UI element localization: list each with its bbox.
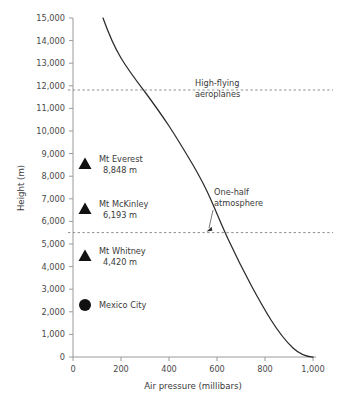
y-tick-label: 9,000 xyxy=(42,149,65,159)
y-tick-label: 1,000 xyxy=(42,329,65,339)
y-tick-label: 15,000 xyxy=(36,13,65,23)
point-marker-mt-whitney-label1: Mt Whitney xyxy=(99,246,146,256)
y-tick-label: 2,000 xyxy=(42,307,65,317)
point-marker-mexico-city-label1: Mexico City xyxy=(99,300,146,310)
y-tick-labels-group: 0 1,000 2,000 3,000 4,000 5,000 6,000 7,… xyxy=(36,13,65,362)
y-tick-label: 4,000 xyxy=(42,262,65,272)
circle-marker-icon xyxy=(79,299,91,311)
point-marker-mt-everest: Mt Everest 8,848 m xyxy=(79,154,144,175)
point-marker-mt-mckinley: Mt McKinley 6,193 m xyxy=(79,199,149,220)
annotation-one-half-atmosphere-arrow-line xyxy=(209,210,213,228)
x-tick-label: 800 xyxy=(257,364,273,374)
y-tick-label: 6,000 xyxy=(42,216,65,226)
y-tick-label: 13,000 xyxy=(36,58,65,68)
y-tick-label: 12,000 xyxy=(36,81,65,91)
x-tick-label: 600 xyxy=(209,364,225,374)
x-axis-title: Air pressure (millibars) xyxy=(144,381,242,391)
point-marker-mt-mckinley-label2: 6,193 m xyxy=(103,210,137,220)
point-marker-mt-everest-label2: 8,848 m xyxy=(103,165,137,175)
triangle-marker-icon xyxy=(79,250,92,262)
x-tick-label: 1,000 xyxy=(301,364,324,374)
y-axis-title: Height (m) xyxy=(16,165,26,211)
y-tick-label: 5,000 xyxy=(42,239,65,249)
air-pressure-height-chart: 0 1,000 2,000 3,000 4,000 5,000 6,000 7,… xyxy=(0,0,340,403)
annotation-one-half-atmosphere-line2: atmosphere xyxy=(214,198,263,208)
y-tick-label: 10,000 xyxy=(36,126,65,136)
annotation-high-flying-aeroplanes-line2: aeroplanes xyxy=(195,89,240,99)
y-tick-label: 11,000 xyxy=(36,103,65,113)
y-tick-label: 7,000 xyxy=(42,194,65,204)
x-ticks-group xyxy=(73,357,313,361)
y-ticks-group xyxy=(69,18,73,357)
x-tick-labels-group: 0 200 400 600 800 1,000 xyxy=(70,364,324,374)
annotation-one-half-atmosphere-line1: One-half xyxy=(214,187,250,197)
annotation-high-flying-aeroplanes-line1: High-flying xyxy=(195,78,239,88)
point-marker-mexico-city: Mexico City xyxy=(79,299,146,311)
annotation-high-flying-aeroplanes: High-flying aeroplanes xyxy=(195,78,240,99)
y-tick-label: 8,000 xyxy=(42,171,65,181)
chart-canvas: 0 1,000 2,000 3,000 4,000 5,000 6,000 7,… xyxy=(0,0,340,403)
x-tick-label: 0 xyxy=(70,364,75,374)
y-tick-label: 0 xyxy=(60,352,65,362)
point-marker-mt-everest-label1: Mt Everest xyxy=(99,154,143,164)
x-tick-label: 400 xyxy=(161,364,177,374)
point-marker-mt-whitney-label2: 4,420 m xyxy=(103,257,137,267)
point-marker-mt-mckinley-label1: Mt McKinley xyxy=(99,199,149,209)
x-tick-label: 200 xyxy=(113,364,129,374)
triangle-marker-icon xyxy=(79,203,92,215)
y-tick-label: 3,000 xyxy=(42,284,65,294)
y-tick-label: 14,000 xyxy=(36,36,65,46)
point-marker-mt-whitney: Mt Whitney 4,420 m xyxy=(79,246,146,267)
triangle-marker-icon xyxy=(79,158,92,170)
